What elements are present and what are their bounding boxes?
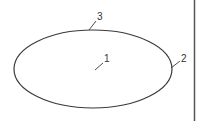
diagram-canvas: 3 2 1 [0, 0, 200, 121]
label-1: 1 [104, 53, 110, 64]
label-2: 2 [181, 53, 187, 64]
leader-line-2 [171, 61, 180, 68]
leader-line-3 [89, 21, 96, 30]
ellipse-shape [14, 30, 172, 108]
leader-line-1 [95, 63, 103, 70]
label-3: 3 [97, 11, 103, 22]
